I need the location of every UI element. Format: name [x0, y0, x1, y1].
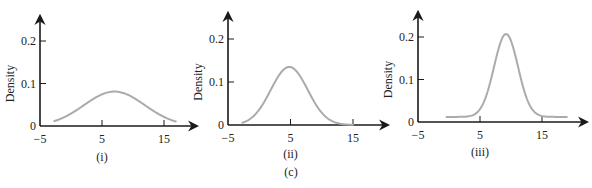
density-curve — [54, 92, 176, 122]
y-tick-label: 0.2 — [21, 34, 36, 48]
x-tick-label: 5 — [477, 128, 483, 142]
y-tick-label: 0 — [218, 118, 224, 132]
density-panel-3: −551500.10.2Density(iii) — [381, 12, 587, 159]
x-tick-label: −5 — [412, 128, 425, 142]
y-tick-label: 0 — [30, 119, 36, 133]
density-panel-1: −551500.10.2Density(i) — [3, 16, 197, 164]
density-curve — [242, 67, 353, 125]
x-tick-label: 5 — [99, 132, 105, 146]
x-tick-label: 15 — [158, 132, 170, 146]
panel-label: (i) — [96, 150, 107, 164]
y-tick-label: 0.2 — [399, 30, 414, 44]
x-tick-label: −5 — [222, 131, 235, 145]
x-tick-label: 5 — [288, 131, 294, 145]
y-tick-label: 0 — [408, 115, 414, 129]
y-tick-label: 0.1 — [209, 75, 224, 89]
density-panel-2: −551500.10.2Density(ii) — [191, 13, 388, 161]
x-tick-label: −5 — [34, 132, 47, 146]
y-tick-label: 0.2 — [209, 32, 224, 46]
density-figure: −551500.10.2Density(i)−551500.10.2Densit… — [0, 0, 592, 188]
x-tick-label: 15 — [536, 128, 548, 142]
density-curve — [447, 34, 567, 117]
y-tick-label: 0.1 — [21, 77, 36, 91]
y-axis-title: Density — [3, 65, 17, 102]
y-axis-title: Density — [191, 63, 205, 100]
panel-label: (iii) — [471, 145, 489, 159]
x-tick-label: 15 — [347, 131, 359, 145]
y-axis-title: Density — [381, 61, 395, 98]
panel-label: (ii) — [283, 147, 298, 161]
y-tick-label: 0.1 — [399, 73, 414, 87]
figure-caption: (c) — [284, 165, 297, 179]
